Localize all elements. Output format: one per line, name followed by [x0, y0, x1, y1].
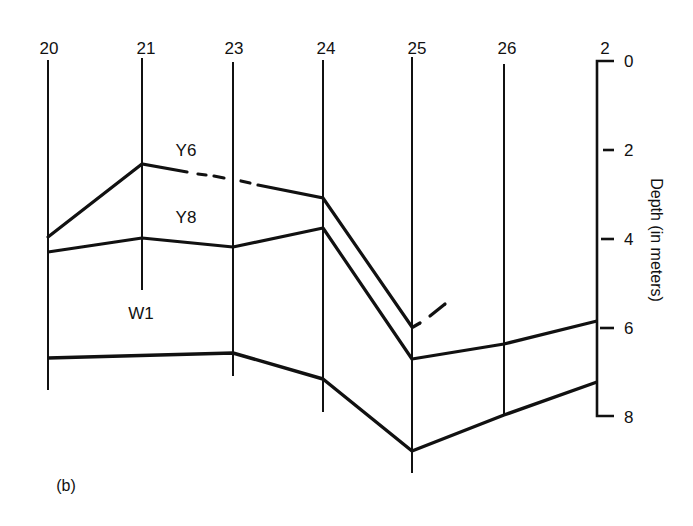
panel-label: (b) [56, 477, 76, 494]
column-label-2: 2 [600, 39, 609, 58]
depth-label-6: 6 [624, 319, 633, 338]
depth-label-8: 8 [624, 408, 633, 427]
depth-label-4: 4 [624, 230, 633, 249]
horizon-label-y8: Y8 [176, 208, 197, 227]
correlation-diagram: 20 21 23 24 25 26 2 0 2 4 6 8 Depth (in … [0, 0, 693, 526]
column-label-25: 25 [408, 39, 427, 58]
column-label-24: 24 [317, 39, 336, 58]
horizon-y6-stub-dash-2 [430, 304, 445, 316]
column-label-26: 26 [498, 39, 517, 58]
column-label-23: 23 [225, 39, 244, 58]
horizon-y6-dash-1 [198, 174, 206, 175]
horizon-y6-stub-dash-1 [413, 323, 420, 327]
depth-axis-title: Depth (in meters) [648, 178, 665, 302]
horizon-label-w1: W1 [128, 304, 154, 323]
depth-tick-labels: 0 2 4 6 8 [624, 52, 633, 427]
column-labels: 20 21 23 24 25 26 2 [40, 39, 610, 58]
horizon-y6-dash-2 [214, 176, 224, 178]
column-label-21: 21 [137, 39, 156, 58]
depth-label-0: 0 [624, 52, 633, 71]
depth-label-2: 2 [624, 141, 633, 160]
horizon-y6-solid-left [48, 164, 187, 237]
depth-axis [597, 61, 614, 416]
column-lines [48, 57, 504, 473]
horizon-y6-solid-right [258, 185, 412, 327]
horizon-label-y6: Y6 [176, 141, 197, 160]
horizon-y6-dash-3 [241, 181, 250, 183]
column-label-20: 20 [40, 39, 59, 58]
